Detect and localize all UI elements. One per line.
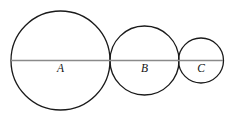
tangent-circles-figure: A B C	[0, 0, 245, 118]
circle-label-a: A	[56, 62, 65, 74]
circle-label-c: C	[197, 62, 205, 74]
diagram-canvas: A B C	[0, 0, 245, 118]
circle-label-b: B	[141, 62, 148, 74]
